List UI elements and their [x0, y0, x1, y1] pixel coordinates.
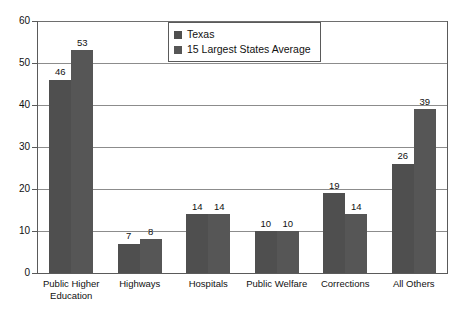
legend-label: Texas — [187, 29, 214, 40]
y-axis-tick-label: 40 — [4, 100, 30, 110]
bar — [414, 109, 436, 273]
bar-value-label: 39 — [408, 97, 442, 107]
y-axis-tick — [32, 189, 38, 190]
legend-swatch-icon — [174, 46, 182, 54]
bar — [255, 231, 277, 273]
bar-value-label: 8 — [134, 227, 168, 237]
bar-group: 2639 — [392, 21, 436, 273]
y-axis-tick-label: 60 — [4, 16, 30, 26]
legend-swatch-icon — [174, 31, 182, 39]
y-axis-tick — [32, 21, 38, 22]
x-axis-line — [37, 273, 448, 274]
x-axis-category-line: Education — [23, 290, 119, 302]
bar — [392, 164, 414, 273]
y-axis-tick — [32, 231, 38, 232]
bar — [118, 244, 140, 273]
bar — [71, 50, 93, 273]
y-axis-tick — [32, 273, 38, 274]
legend: Texas 15 Largest States Average — [168, 22, 321, 62]
y-axis-tick — [32, 63, 38, 64]
legend-item: 15 Largest States Average — [174, 42, 311, 57]
bar-group: 4653 — [49, 21, 93, 273]
x-axis-labels: Public HigherEducationHighwaysHospitalsP… — [37, 278, 448, 318]
y-axis-tick-label: 50 — [4, 58, 30, 68]
y-axis-tick — [32, 147, 38, 148]
y-axis-tick — [32, 105, 38, 106]
y-axis-tick-label: 10 — [4, 226, 30, 236]
bar-group: 78 — [118, 21, 162, 273]
bar — [345, 214, 367, 273]
x-axis-category-line: All Others — [366, 278, 462, 290]
y-axis: 0102030405060 — [0, 0, 30, 322]
bar-group: 1914 — [323, 21, 367, 273]
y-axis-tick-label: 30 — [4, 142, 30, 152]
bar-value-label: 19 — [317, 181, 351, 191]
bar-value-label: 53 — [65, 38, 99, 48]
y-axis-tick-label: 0 — [4, 268, 30, 278]
bar-chart: 0102030405060 4653781414101019142639 Pub… — [0, 0, 472, 322]
bar — [208, 214, 230, 273]
x-axis-category-label: All Others — [366, 278, 462, 290]
bar — [277, 231, 299, 273]
y-axis-tick-label: 20 — [4, 184, 30, 194]
bar-value-label: 14 — [339, 202, 373, 212]
legend-item: Texas — [174, 27, 311, 42]
bar-value-label: 14 — [202, 202, 236, 212]
legend-label: 15 Largest States Average — [187, 44, 311, 55]
bar — [186, 214, 208, 273]
bar — [49, 80, 71, 273]
bar-value-label: 10 — [271, 219, 305, 229]
bar — [140, 239, 162, 273]
